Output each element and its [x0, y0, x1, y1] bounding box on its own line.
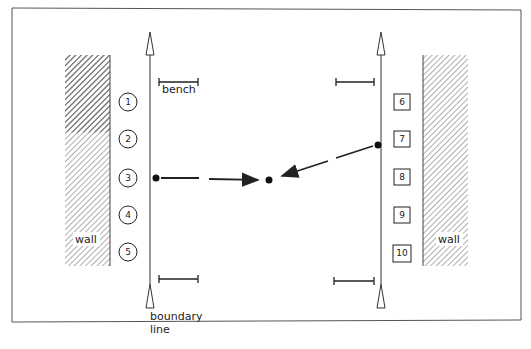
left-player-3: 3 [119, 169, 137, 187]
svg-text:2: 2 [125, 134, 131, 144]
right-player-9: 9 [394, 207, 410, 223]
svg-text:4: 4 [125, 210, 131, 220]
pass-right-segment-2 [282, 161, 328, 176]
bench-top-right [336, 78, 374, 86]
pass-right-segment-1 [336, 146, 373, 158]
svg-text:8: 8 [399, 172, 405, 182]
svg-text:10: 10 [396, 248, 408, 258]
left-player-5: 5 [119, 243, 137, 261]
left-player-4: 4 [119, 206, 137, 224]
pass-left-segment-2 [209, 179, 258, 180]
boundary-label-line1: boundary [150, 310, 203, 323]
left-boundary-arrow-top [146, 32, 154, 55]
left-wall-label: wall [75, 233, 97, 246]
ball-start-right [375, 142, 382, 149]
svg-text:9: 9 [399, 210, 405, 220]
ball-center [266, 177, 273, 184]
right-player-6: 6 [394, 94, 410, 110]
left-player-2: 2 [119, 130, 137, 148]
svg-text:5: 5 [125, 247, 131, 257]
right-player-8: 8 [394, 169, 410, 185]
right-player-10: 10 [393, 245, 411, 262]
svg-text:3: 3 [125, 173, 131, 183]
left-player-1: 1 [119, 93, 137, 111]
svg-text:1: 1 [125, 97, 131, 107]
svg-text:7: 7 [399, 134, 405, 144]
right-player-7: 7 [394, 131, 410, 147]
left-boundary-arrow-bottom [146, 284, 154, 308]
right-wall-label: wall [438, 233, 460, 246]
bench-bottom-right [334, 277, 374, 285]
ball-start-left [153, 175, 160, 182]
bench-label: bench [162, 83, 196, 96]
svg-text:6: 6 [399, 97, 405, 107]
court-diagram: bench wall wall boundary line 1 2 3 4 5 … [0, 0, 531, 349]
right-boundary-arrow-top [377, 32, 385, 55]
bench-bottom-left [159, 275, 198, 283]
boundary-label-line2: line [150, 323, 170, 336]
right-boundary-arrow-bottom [377, 284, 385, 308]
